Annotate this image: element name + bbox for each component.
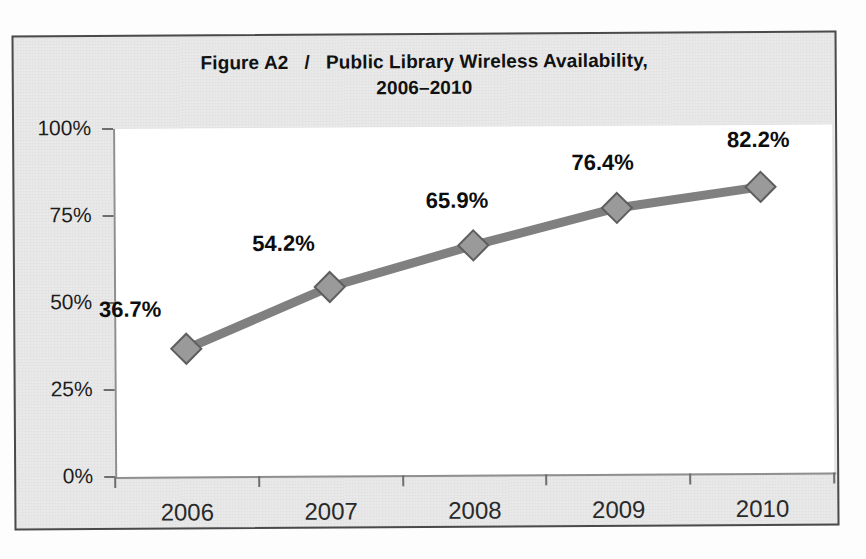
data-point-marker-2006 xyxy=(171,334,201,364)
data-point-marker-2008 xyxy=(458,230,488,260)
scanned-page: Figure A2 / Public Library Wireless Avai… xyxy=(0,0,866,559)
data-label-2007: 54.2% xyxy=(252,231,315,257)
data-label-2009: 76.4% xyxy=(571,150,634,176)
data-label-2010: 82.2% xyxy=(727,127,790,153)
data-point-marker-2010 xyxy=(745,172,775,202)
line-series xyxy=(14,32,842,532)
data-label-2006: 36.7% xyxy=(99,297,162,323)
figure-frame: Figure A2 / Public Library Wireless Avai… xyxy=(11,30,839,530)
data-point-marker-2009 xyxy=(602,193,632,223)
data-label-2008: 65.9% xyxy=(426,187,489,213)
data-point-marker-2007 xyxy=(315,272,345,302)
